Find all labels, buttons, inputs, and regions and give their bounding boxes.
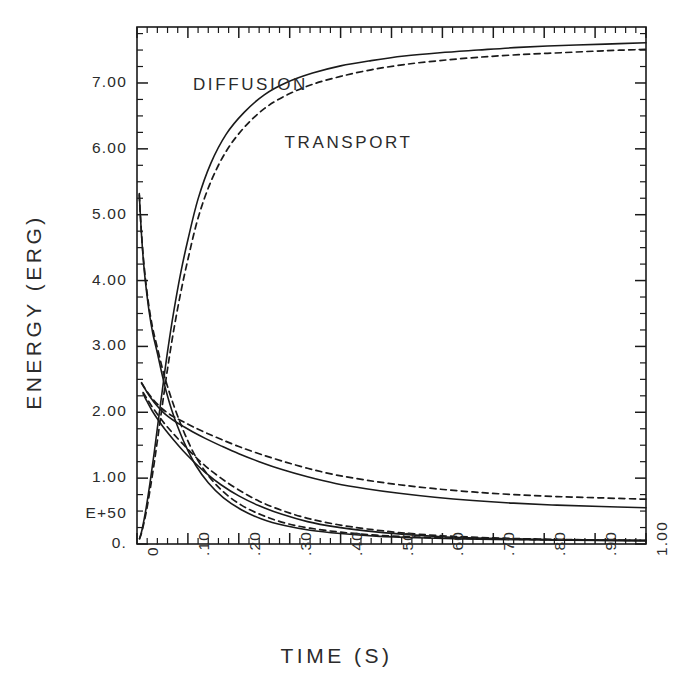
- x-tick-label: .10: [195, 531, 213, 556]
- x-tick-label: .30: [297, 531, 315, 556]
- y-tick-label: 4.00: [41, 271, 127, 289]
- y-tick-label: 1.00: [41, 468, 127, 486]
- y-axis-title: ENERGY (ERG): [22, 202, 46, 422]
- x-tick-label: .60: [449, 531, 467, 556]
- data-curves: [139, 43, 646, 541]
- y-tick-label: 2.00: [41, 402, 127, 420]
- curve-transport-rising: [140, 49, 646, 538]
- x-tick-label: 1.00: [653, 521, 671, 556]
- x-tick-label: 0.: [144, 541, 162, 556]
- curve-diffusion-low-decay: [143, 394, 646, 541]
- x-axis-title: TIME (S): [0, 644, 673, 668]
- plot-frame: [137, 27, 646, 544]
- x-tick-label: .20: [246, 531, 264, 556]
- y-tick-label: 3.00: [41, 336, 127, 354]
- x-tick-label: .70: [500, 531, 518, 556]
- annotation-diffusion: DIFFUSION: [193, 75, 308, 95]
- curve-diffusion-rising: [140, 43, 646, 539]
- x-tick-label: .80: [551, 531, 569, 556]
- chart-figure: ENERGY (ERG) TIME (S) 0.1.002.003.004.00…: [0, 0, 673, 692]
- curve-transport-steep-decay: [139, 195, 646, 541]
- y-tick-label: 0.: [41, 534, 127, 552]
- curve-transport-low-decay: [143, 393, 646, 541]
- curve-diffusion-mid-decay: [142, 383, 646, 508]
- curve-diffusion-steep-decay: [139, 194, 646, 541]
- y-tick-label: 6.00: [41, 139, 127, 157]
- axis-ticks: [137, 27, 646, 544]
- x-tick-label: .90: [602, 531, 620, 556]
- y-tick-label: 5.00: [41, 205, 127, 223]
- x-tick-label: .50: [399, 531, 417, 556]
- x-tick-label: .40: [348, 531, 366, 556]
- y-tick-label: 7.00: [41, 73, 127, 91]
- annotation-transport: TRANSPORT: [285, 133, 413, 153]
- y-axis-exponent-label: E+50: [41, 504, 127, 522]
